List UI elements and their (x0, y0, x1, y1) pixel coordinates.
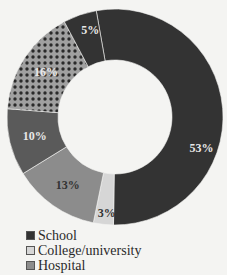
legend: School College/university Hospital (26, 228, 141, 273)
segment-label: 3% (98, 206, 116, 220)
legend-label: College/university (38, 243, 141, 258)
donut-segments (7, 9, 223, 225)
legend-label: Hospital (38, 258, 85, 273)
segment-label: 16% (34, 65, 58, 79)
legend-swatch-hospital (26, 261, 35, 270)
donut-chart: 53%3%13%10%16%5% (0, 0, 227, 230)
donut-segment (96, 9, 223, 225)
legend-label: School (38, 228, 77, 243)
legend-swatch-school (26, 231, 35, 240)
segment-label: 13% (56, 178, 80, 192)
legend-item-college: College/university (26, 243, 141, 258)
segment-label: 53% (189, 141, 213, 155)
segment-label: 10% (23, 129, 47, 143)
legend-swatch-college (26, 246, 35, 255)
segment-label: 5% (81, 23, 99, 37)
legend-item-hospital: Hospital (26, 258, 141, 273)
legend-item-school: School (26, 228, 141, 243)
